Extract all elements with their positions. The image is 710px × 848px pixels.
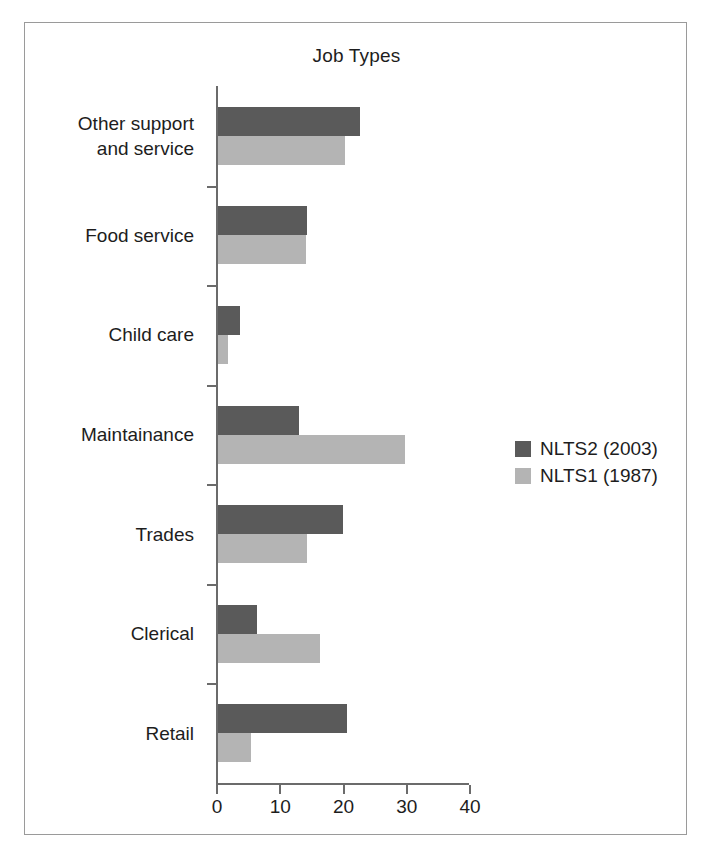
bar [218, 505, 343, 534]
bar-group: Other support and service [218, 107, 471, 165]
y-axis-tick [207, 285, 216, 287]
category-label: Trades [0, 522, 194, 547]
category-label: Retail [0, 721, 194, 746]
bar-group: Retail [218, 704, 471, 762]
bar-group: Maintainance [218, 406, 471, 464]
bar [218, 435, 405, 464]
bar [218, 406, 299, 435]
y-axis-tick [207, 186, 216, 188]
bar [218, 634, 320, 663]
y-axis-tick [207, 484, 216, 486]
x-axis-tick [469, 785, 471, 794]
chart-title: Job Types [25, 45, 688, 67]
bar-group: Child care [218, 306, 471, 364]
bar [218, 534, 307, 563]
bar [218, 704, 347, 733]
bar [218, 605, 257, 634]
x-axis-tick-label: 10 [250, 796, 310, 818]
category-label: Maintainance [0, 422, 194, 447]
x-axis-tick [406, 785, 408, 794]
bar [218, 136, 345, 165]
bar [218, 733, 251, 762]
category-label: Other support and service [0, 111, 194, 161]
chart-figure: Job Types 010203040 Other support and se… [24, 22, 687, 835]
chart-legend: NLTS2 (2003)NLTS1 (1987) [515, 435, 658, 489]
legend-item: NLTS1 (1987) [515, 462, 658, 489]
bar [218, 206, 307, 235]
x-axis-tick [216, 785, 218, 794]
x-axis-tick-label: 20 [314, 796, 374, 818]
bar [218, 235, 306, 264]
x-axis-tick-label: 30 [377, 796, 437, 818]
y-axis-tick [207, 584, 216, 586]
bar [218, 335, 228, 364]
x-axis-tick [279, 785, 281, 794]
bar [218, 107, 360, 136]
y-axis-tick [207, 683, 216, 685]
x-axis-tick-label: 0 [187, 796, 247, 818]
plot-area: 010203040 Other support and serviceFood … [216, 86, 469, 783]
legend-label: NLTS2 (2003) [540, 438, 658, 460]
category-label: Food service [0, 223, 194, 248]
legend-item: NLTS2 (2003) [515, 435, 658, 462]
x-axis-tick [343, 785, 345, 794]
bar-group: Clerical [218, 605, 471, 663]
legend-swatch-icon [515, 441, 531, 457]
bar-group: Food service [218, 206, 471, 264]
category-label: Child care [0, 322, 194, 347]
bar [218, 306, 240, 335]
legend-label: NLTS1 (1987) [540, 465, 658, 487]
bar-group: Trades [218, 505, 471, 563]
legend-swatch-icon [515, 468, 531, 484]
x-axis-tick-label: 40 [440, 796, 500, 818]
category-label: Clerical [0, 621, 194, 646]
y-axis-tick [207, 385, 216, 387]
